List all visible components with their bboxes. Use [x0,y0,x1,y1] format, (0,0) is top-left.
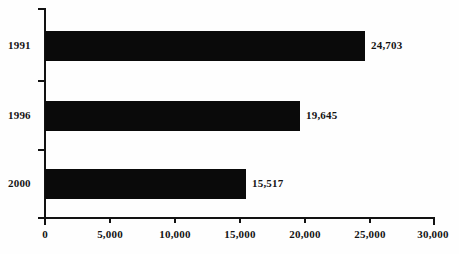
bar-1991 [45,31,365,61]
x-axis-label-10000: 10,000 [159,228,190,240]
x-axis-tick-15000 [239,218,241,223]
x-axis-tick-10000 [174,218,176,223]
x-axis-tick-30000 [433,218,435,225]
x-axis-tick-0 [44,218,46,225]
bar-1996 [45,101,300,131]
x-axis-label-20000: 20,000 [289,228,320,240]
x-axis-label-30000: 30,000 [417,228,448,240]
x-axis-label-5000: 5,000 [97,228,123,240]
x-axis-label-15000: 15,000 [224,228,255,240]
y-axis-tick-1 [38,80,44,82]
category-label-1996: 1996 [8,109,40,121]
value-label-2000: 15,517 [252,177,283,189]
bar-chart: 1991 24,703 1996 19,645 2000 15,517 0 5,… [0,0,459,254]
category-label-2000: 2000 [8,177,40,189]
value-label-1996: 19,645 [306,109,337,121]
x-axis-label-0: 0 [42,228,48,240]
value-label-1991: 24,703 [371,39,402,51]
x-axis-label-25000: 25,000 [354,228,385,240]
y-axis-tick-2 [38,149,44,151]
bar-2000 [45,169,246,199]
x-axis-tick-20000 [304,218,306,223]
y-axis-tick-top [38,8,44,10]
category-label-1991: 1991 [8,39,40,51]
x-axis-tick-25000 [369,218,371,223]
x-axis-tick-5000 [109,218,111,223]
